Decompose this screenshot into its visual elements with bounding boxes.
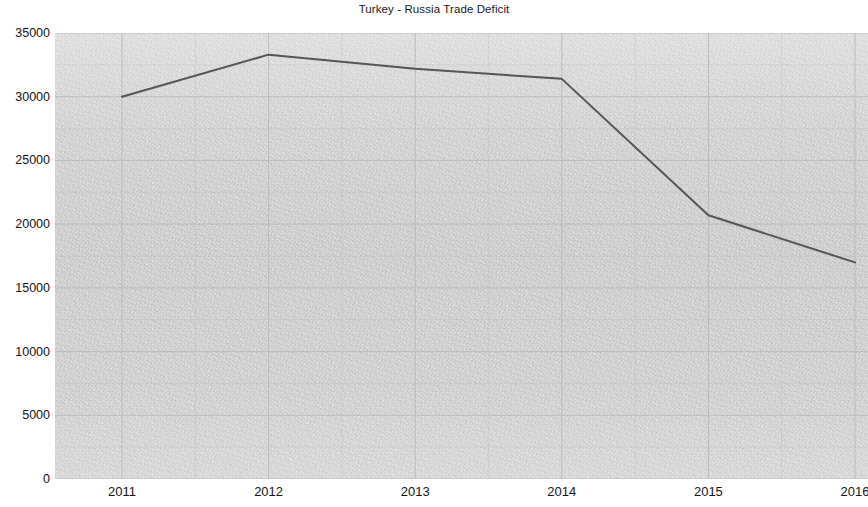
data-series-line [55,33,868,479]
y-axis-tick-label: 20000 [2,217,50,231]
x-axis-tick-labels: 201120122013201420152016 [55,484,868,506]
x-axis-tick-label: 2011 [108,484,136,499]
y-axis-tick-label: 35000 [2,26,50,40]
x-axis-tick-label: 2012 [254,484,283,499]
y-axis-tick-labels: 05000100001500020000250003000035000 [0,33,50,479]
chart-title: Turkey - Russia Trade Deficit [0,3,868,15]
y-axis-tick-label: 5000 [2,408,50,422]
x-axis-tick-label: 2014 [547,484,576,499]
series-line-turkey-russia-trade-deficit [122,55,855,263]
x-axis-tick-label: 2015 [694,484,723,499]
x-axis-tick-label: 2013 [401,484,430,499]
plot-area [55,33,868,479]
y-axis-tick-label: 10000 [2,345,50,359]
chart-container: Turkey - Russia Trade Deficit 0500010000… [0,0,868,507]
y-axis-tick-label: 15000 [2,281,50,295]
y-axis-tick-label: 25000 [2,153,50,167]
x-axis-tick-label: 2016 [841,484,868,499]
y-axis-tick-label: 0 [2,472,50,486]
y-axis-tick-label: 30000 [2,90,50,104]
